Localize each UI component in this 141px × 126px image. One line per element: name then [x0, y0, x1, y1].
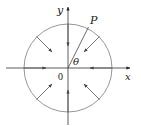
arrow-northwest	[37, 37, 53, 53]
arrow-southwest	[37, 84, 53, 100]
x-axis-label: x	[125, 71, 131, 82]
arrow-southeast	[84, 84, 100, 100]
arrow-northeast	[84, 37, 100, 53]
theta-label: θ	[73, 56, 79, 67]
y-axis-label: y	[56, 4, 64, 17]
polar-diagram: y P θ 0 x	[0, 0, 141, 126]
origin-label: 0	[58, 71, 63, 82]
point-p-label: P	[89, 14, 98, 27]
